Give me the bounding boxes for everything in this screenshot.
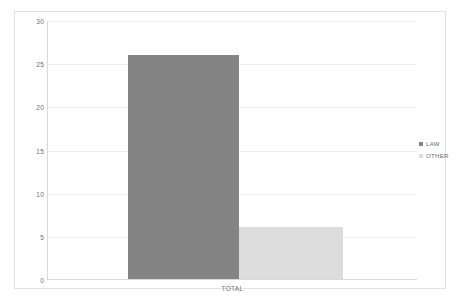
legend-label-law: LAW <box>426 140 440 147</box>
legend-swatch-other <box>419 154 423 158</box>
y-axis-tick-label: 5 <box>40 233 44 240</box>
legend-label-other: OTHER <box>426 152 449 159</box>
legend-item-other[interactable]: OTHER <box>419 152 460 159</box>
x-axis-label: TOTAL <box>48 285 417 292</box>
y-axis-tick-label: 10 <box>36 190 44 197</box>
y-axis-tick-label: 20 <box>36 104 44 111</box>
legend-item-law[interactable]: LAW <box>419 140 460 147</box>
chart-legend: LAW OTHER <box>419 140 460 164</box>
y-axis-tick-label: 25 <box>36 61 44 68</box>
bar-other[interactable] <box>239 227 343 279</box>
bar-law[interactable] <box>128 55 239 279</box>
y-axis-tick-label: 30 <box>36 18 44 25</box>
y-axis-tick-label: 0 <box>40 277 44 284</box>
chart-frame: 051015202530 TOTAL LAW OTHER <box>14 11 446 289</box>
legend-swatch-law <box>419 142 423 146</box>
plot-area: 051015202530 TOTAL <box>47 21 417 280</box>
bar-group <box>48 21 417 279</box>
y-axis-tick-label: 15 <box>36 147 44 154</box>
